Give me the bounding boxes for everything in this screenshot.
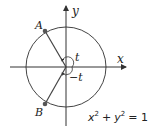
x-axis-label: x [117,52,124,66]
point-A [43,29,48,34]
eq-exp-y: 2 [121,110,125,118]
eq-plus: + [102,111,111,124]
angle-t-label: t [75,51,80,64]
angle-t-arc [62,57,74,67]
angle-minus-t-label: −t [69,71,83,84]
circle-equation: x2+y2= 1 [87,110,148,124]
unit-circle-diagram: y x A B t −t x2+y2= 1 [0,0,151,134]
radius-to-B [45,67,66,104]
y-axis-label: y [71,4,79,18]
point-A-label: A [34,19,43,32]
point-B [43,102,48,107]
eq-rhs: = 1 [128,111,148,124]
svg-text:x2+y2= 1: x2+y2= 1 [87,110,148,124]
eq-exp-x: 2 [95,110,99,118]
radius-to-A [45,31,66,67]
point-B-label: B [34,106,43,119]
